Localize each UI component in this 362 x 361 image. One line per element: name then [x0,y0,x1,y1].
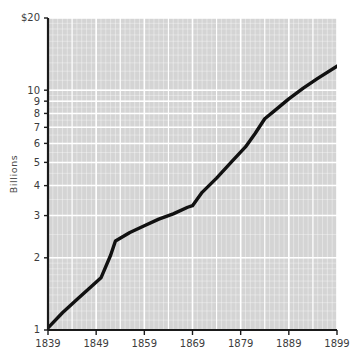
y-axis-title: Billions [8,155,19,194]
x-tick-label: 1849 [83,338,108,349]
y-tick-label: 8 [34,108,40,119]
y-tick-label: 9 [34,96,40,107]
x-tick-label: 1839 [35,338,60,349]
x-tick-label: 1879 [228,338,253,349]
line-chart: $2010987654321 1839184918591869187918891… [0,0,362,361]
y-tick-label: $20 [21,12,40,23]
x-tick-label: 1869 [180,338,205,349]
chart-container: $2010987654321 1839184918591869187918891… [0,0,362,361]
y-tick-label: 4 [34,180,40,191]
y-tick-label: 2 [34,252,40,263]
x-tick-label: 1859 [132,338,157,349]
x-tick-label: 1899 [324,338,349,349]
y-tick-label: 6 [34,138,40,149]
y-tick-label: 7 [34,122,40,133]
y-tick-label: 1 [34,324,40,335]
y-tick-label: 5 [34,157,40,168]
y-tick-label: 10 [27,85,40,96]
y-tick-label: 3 [34,210,40,221]
x-tick-label: 1889 [276,338,301,349]
